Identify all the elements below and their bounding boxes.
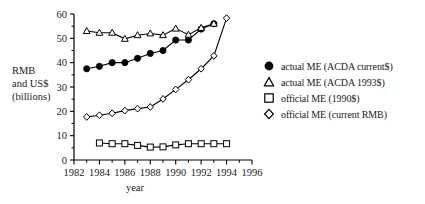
y-axis-label: RMB and US$ (billions) [12,64,70,103]
data-point-open-triangle [185,31,192,37]
data-point-open-square [185,141,191,147]
x-axis-tick-label: 1984 [89,167,111,178]
chart-legend: actual ME (ACDA current$) actual ME (ACD… [262,58,425,122]
data-point-open-triangle [147,30,154,36]
data-point-open-diamond [84,114,90,121]
legend-item-label: actual ME (ACDA 1993$) [281,77,385,88]
data-point-filled-circle [173,37,179,43]
x-axis-label: year [0,182,270,193]
data-point-open-square [96,140,102,146]
data-point-open-diamond [223,15,229,22]
series-layer [83,15,229,150]
data-point-open-diamond [109,110,115,117]
legend-item: actual ME (ACDA 1993$) [262,74,425,90]
open-triangle-icon [262,75,276,89]
data-point-open-square [211,141,217,147]
data-point-open-square [109,141,115,147]
y-axis-tick-label: 50 [57,33,68,44]
data-point-open-diamond [147,104,153,111]
x-axis-tick-label: 1982 [64,167,85,178]
data-point-open-diamond [122,107,128,114]
data-point-open-triangle [172,25,179,31]
x-axis-tick-label: 1994 [216,167,238,178]
data-point-filled-circle [109,60,115,66]
data-point-open-square [160,144,166,150]
filled-circle-icon [262,59,276,73]
x-axis-tick-label: 1988 [140,167,161,178]
data-point-filled-circle [134,55,140,61]
data-point-open-diamond [160,96,166,103]
x-axis-tick-label: 1990 [165,167,186,178]
y-axis-label-line-1: RMB [12,64,70,77]
y-axis-label-line-3: (billions) [12,90,70,103]
data-point-open-diamond [134,105,140,112]
legend-item-label: actual ME (ACDA current$) [281,61,393,72]
data-point-filled-circle [147,50,153,56]
y-axis-tick-label: 20 [57,106,68,117]
y-axis-label-line-2: and US$ [12,77,70,90]
legend-item: actual ME (ACDA current$) [262,58,425,74]
open-square-icon [262,91,276,105]
y-axis-tick-label: 10 [57,130,68,141]
legend-item: official ME (current RMB) [262,106,425,122]
data-point-open-square [122,141,128,147]
data-point-open-diamond [96,112,102,119]
data-point-open-triangle [83,28,90,34]
data-point-open-square [198,141,204,147]
legend-item-label: official ME (current RMB) [281,109,387,120]
legend-item-label: official ME (1990$) [281,93,359,104]
data-point-filled-circle [122,60,128,66]
x-axis-tick-label: 1986 [114,167,135,178]
data-point-filled-circle [84,66,90,72]
data-point-open-square [224,141,230,147]
data-point-filled-circle [96,63,102,69]
data-point-filled-circle [185,37,191,43]
data-point-open-square [147,144,153,150]
data-point-open-square [173,142,179,148]
y-axis-tick-label: 0 [62,155,67,166]
legend-item: official ME (1990$) [262,90,425,106]
data-point-filled-circle [160,47,166,53]
y-axis-tick-label: 60 [57,9,68,20]
open-diamond-icon [262,107,276,121]
data-point-open-square [135,142,141,148]
x-axis-tick-label: 1992 [191,167,212,178]
chart-figure: 0102030405060198219841986198819901992199… [0,0,425,204]
x-axis-tick-label: 1996 [242,167,263,178]
